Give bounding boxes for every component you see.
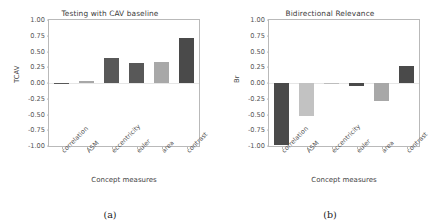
y-tick-mark — [47, 130, 50, 131]
bar-area — [154, 62, 169, 83]
y-tick-label: 0.00 — [250, 79, 265, 87]
zero-line-b — [269, 83, 419, 84]
y-tick-mark — [267, 83, 270, 84]
y-tick-mark — [47, 114, 50, 115]
bar-euler — [129, 63, 144, 83]
y-tick-label: -0.25 — [28, 95, 45, 103]
bar-area — [374, 83, 389, 101]
x-tick-label-correlation: correlation — [60, 125, 90, 155]
y-tick-mark — [267, 146, 270, 147]
y-tick-label: 0.25 — [250, 63, 265, 71]
y-tick-label: 0.75 — [250, 32, 265, 40]
x-tick-label-area: area — [380, 139, 396, 155]
figure-two-panel-bar-charts: Testing with CAV baseline 1.000.750.500.… — [0, 0, 440, 224]
y-tick-label: 0.75 — [30, 32, 45, 40]
y-tick-label: -0.25 — [248, 95, 265, 103]
bar-euler — [349, 83, 364, 86]
y-tick-label: -1.00 — [28, 142, 45, 150]
subfigure-caption-b: (b) — [220, 209, 440, 220]
x-tick-label-area: area — [160, 139, 176, 155]
y-tick-mark — [47, 51, 50, 52]
bar-correlation — [54, 83, 69, 84]
y-tick-label: -0.50 — [248, 111, 265, 119]
y-tick-mark — [267, 114, 270, 115]
bar-ASM — [299, 83, 314, 116]
plot-area-a: 1.000.750.500.250.00-0.25-0.50-0.75-1.00… — [48, 19, 200, 147]
y-tick-label: 0.50 — [250, 48, 265, 56]
bar-eccentricity — [324, 83, 339, 84]
y-tick-label: 0.00 — [30, 79, 45, 87]
y-tick-mark — [47, 67, 50, 68]
bar-contrast — [399, 66, 414, 83]
bar-correlation — [274, 83, 289, 145]
subfigure-caption-a: (a) — [0, 209, 220, 220]
y-tick-mark — [267, 98, 270, 99]
x-tick-label-euler: euler — [355, 137, 372, 154]
y-tick-label: -0.75 — [28, 126, 45, 134]
bar-ASM — [79, 81, 94, 83]
x-tick-label-ASM: ASM — [85, 139, 101, 155]
y-tick-mark — [47, 83, 50, 84]
x-axis-label-b: Concept measures — [268, 176, 420, 184]
y-tick-mark — [267, 20, 270, 21]
y-tick-label: -1.00 — [248, 142, 265, 150]
x-tick-label-ASM: ASM — [305, 139, 321, 155]
y-tick-label: 1.00 — [30, 16, 45, 24]
y-tick-mark — [267, 35, 270, 36]
bar-contrast — [179, 38, 194, 83]
panel-a: Testing with CAV baseline 1.000.750.500.… — [0, 0, 220, 224]
x-tick-label-contrast: contrast — [185, 130, 209, 154]
y-tick-mark — [47, 35, 50, 36]
x-axis-label-a: Concept measures — [48, 176, 200, 184]
y-tick-label: 0.50 — [30, 48, 45, 56]
x-tick-label-contrast: contrast — [405, 130, 429, 154]
panel-b: Bidirectional Relevance 1.000.750.500.25… — [220, 0, 440, 224]
bar-eccentricity — [104, 58, 119, 83]
y-tick-mark — [267, 51, 270, 52]
y-tick-label: 0.25 — [30, 63, 45, 71]
y-tick-mark — [267, 67, 270, 68]
y-tick-label: -0.75 — [248, 126, 265, 134]
y-tick-mark — [267, 130, 270, 131]
y-axis-label-b: Br — [233, 76, 241, 83]
zero-line-a — [49, 83, 199, 84]
y-tick-mark — [47, 20, 50, 21]
plot-area-b: 1.000.750.500.250.00-0.25-0.50-0.75-1.00… — [268, 19, 420, 147]
y-tick-label: 1.00 — [250, 16, 265, 24]
y-tick-mark — [47, 98, 50, 99]
y-tick-mark — [47, 146, 50, 147]
y-tick-label: -0.50 — [28, 111, 45, 119]
y-axis-label-a: TCAV — [13, 66, 21, 83]
x-tick-label-euler: euler — [135, 137, 152, 154]
